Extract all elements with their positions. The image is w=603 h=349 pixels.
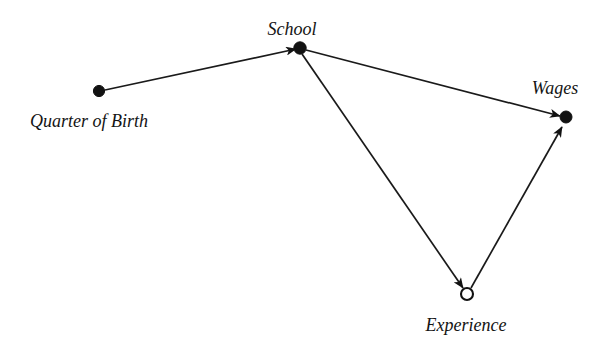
node-marker-school[interactable] — [294, 42, 306, 54]
node-marker-experience[interactable] — [461, 288, 473, 300]
node-label-wages: Wages — [532, 78, 578, 98]
edge-quarter-of-birth-to-school — [105, 49, 296, 90]
diagram-canvas: Quarter of Birth School Wages Experience — [0, 0, 603, 349]
edge-experience-to-wages — [471, 127, 562, 288]
node-label-experience: Experience — [425, 315, 507, 335]
nodes-group — [93, 42, 572, 300]
node-marker-wages[interactable] — [560, 111, 572, 123]
edge-school-to-experience — [302, 54, 463, 288]
causal-diagram-svg: Quarter of Birth School Wages Experience — [0, 0, 603, 349]
node-label-school: School — [268, 19, 317, 39]
node-label-quarter-of-birth: Quarter of Birth — [30, 111, 148, 131]
edge-school-to-wages — [306, 50, 560, 116]
node-marker-quarter-of-birth[interactable] — [93, 85, 104, 96]
edges-group — [105, 49, 562, 288]
labels-group: Quarter of Birth School Wages Experience — [30, 19, 578, 335]
